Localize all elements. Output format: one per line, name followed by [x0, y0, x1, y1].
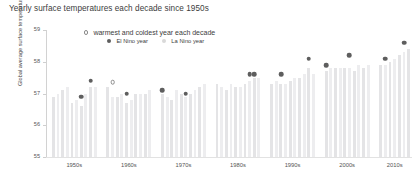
data-point-marker-el-nino [347, 53, 352, 58]
bar [120, 94, 123, 158]
bar [161, 94, 164, 158]
data-point-marker-extreme [110, 80, 115, 85]
bar [270, 84, 273, 157]
legend-label-la-nino: La Nino year [171, 38, 204, 44]
bar [289, 81, 292, 157]
data-point-marker-el-nino [124, 91, 129, 96]
data-point-marker-el-nino [279, 72, 284, 77]
bar [353, 71, 356, 157]
bar [184, 97, 187, 157]
bar [61, 90, 64, 157]
bar [57, 94, 60, 158]
bar [216, 84, 219, 157]
legend-label-extreme: warmest and coldest year each decade [93, 29, 215, 36]
y-tick-mark [43, 125, 46, 126]
bar [234, 87, 237, 157]
x-group-label: 1980s [230, 162, 246, 168]
bar [144, 94, 147, 158]
y-tick-mark [43, 62, 46, 63]
bar [194, 90, 197, 157]
bar [198, 87, 201, 157]
bar [111, 97, 114, 157]
bar [312, 74, 315, 157]
data-point-marker-el-nino [307, 56, 312, 61]
bar [134, 94, 137, 158]
bar [84, 94, 87, 158]
y-tick-label: 58 [24, 58, 40, 64]
bar [75, 100, 78, 157]
bar [189, 94, 192, 158]
data-point-marker-el-nino [88, 79, 93, 84]
y-axis-line [46, 30, 47, 157]
bar [170, 100, 173, 157]
bar [71, 103, 74, 157]
data-point-marker-el-nino [402, 40, 407, 45]
bar [367, 65, 370, 157]
data-point-marker-el-nino [160, 88, 165, 93]
x-group-label: 1970s [176, 162, 192, 168]
bar [52, 97, 55, 157]
bar [403, 52, 406, 157]
bar [203, 84, 206, 157]
bar [339, 68, 342, 157]
x-group-label: 2010s [387, 162, 403, 168]
bar [139, 94, 142, 158]
data-point-marker-el-nino [79, 94, 84, 99]
bar [384, 65, 387, 157]
bar [303, 74, 306, 157]
x-group-label: 2000s [339, 162, 355, 168]
bar [220, 87, 223, 157]
bar [307, 68, 310, 157]
bar [393, 59, 396, 157]
bar [244, 84, 247, 157]
bar [230, 84, 233, 157]
bar [248, 81, 251, 157]
bar [80, 106, 83, 157]
bar [116, 97, 119, 157]
bar [257, 78, 260, 157]
bar [357, 65, 360, 157]
data-point-marker-el-nino [324, 63, 329, 68]
data-point-marker-el-nino [383, 56, 388, 61]
y-tick-label: 56 [24, 121, 40, 127]
legend-label-el-nino: El Nino year [116, 38, 148, 44]
bar [166, 97, 169, 157]
y-axis-title: Global average surface temperature (oF) [17, 0, 23, 101]
bar [89, 87, 92, 157]
y-tick-label: 55 [24, 153, 40, 159]
y-tick-mark [43, 30, 46, 31]
bar [225, 90, 228, 157]
bar [275, 81, 278, 157]
bar [325, 71, 328, 157]
bar [253, 78, 256, 157]
y-tick-mark [43, 157, 46, 158]
bar [175, 90, 178, 157]
bar [343, 68, 346, 157]
bar [148, 90, 151, 157]
bar [94, 87, 97, 157]
chart-figure: Yearly surface temperatures each decade … [0, 0, 418, 184]
y-tick-label: 57 [24, 90, 40, 96]
bar [130, 100, 133, 157]
legend-items-nino: El Nino year La Nino year [107, 38, 215, 44]
y-tick-mark [43, 94, 46, 95]
faint-circle-icon [162, 39, 166, 43]
bar [407, 49, 410, 157]
filled-circle-icon [107, 39, 111, 43]
open-circle-icon [84, 30, 88, 34]
chart-title: Yearly surface temperatures each decade … [9, 4, 209, 13]
bar [279, 84, 282, 157]
plot-area: 5958575655 1950s1960s1970s1980s1990s2000… [46, 30, 412, 157]
bar [362, 68, 365, 157]
x-group-label: 1960s [121, 162, 137, 168]
chart-legend: warmest and coldest year each decade El … [84, 29, 215, 44]
bar [125, 103, 128, 157]
bar [239, 87, 242, 157]
bar [298, 78, 301, 157]
bar [293, 78, 296, 157]
bar [329, 68, 332, 157]
x-group-label: 1950s [66, 162, 82, 168]
bar [389, 62, 392, 157]
x-axis-line [46, 157, 412, 158]
bar [334, 68, 337, 157]
